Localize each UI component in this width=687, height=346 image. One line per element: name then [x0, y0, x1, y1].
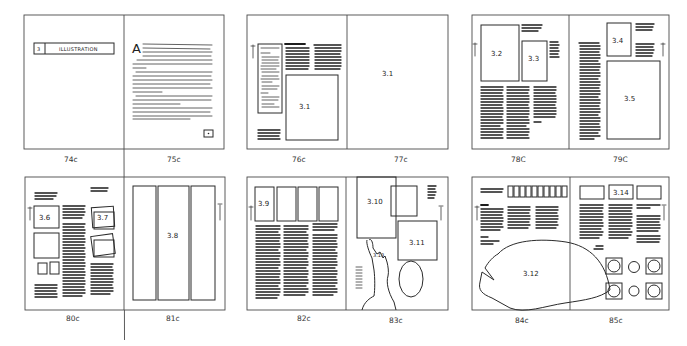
spread-82-83: 3.9	[247, 177, 448, 325]
figure-label: 3.2	[491, 50, 502, 58]
figure-label: 3.5	[624, 95, 635, 103]
figure-label: 3.7	[97, 214, 108, 222]
figure-label: 3.8	[167, 232, 178, 240]
figure-label: 3.13	[373, 252, 384, 258]
chapter-number: 3	[37, 46, 40, 52]
figure-label: 3.14	[613, 189, 629, 197]
page-label-85: 85c	[609, 316, 623, 325]
chapter-title: ILLUSTRATION	[59, 46, 98, 52]
spread-78-79: 3.2 3.3	[472, 15, 669, 164]
figure-label: 3.4	[612, 37, 624, 45]
drop-cap: A	[132, 41, 141, 56]
figure-label: 3.12	[523, 270, 539, 278]
layout-diagram: 3 ILLUSTRATION A	[0, 0, 687, 346]
spread-84-85: 3.12 3.14	[472, 177, 669, 325]
figure-label: 3.9	[258, 200, 269, 208]
figure-label: 3.11	[409, 239, 425, 247]
page-label-84: 84c	[515, 316, 529, 325]
figure-label: 3.10	[367, 198, 383, 206]
spread-frame	[472, 177, 669, 310]
figure-label: 3.6	[39, 214, 51, 222]
page-label-79: 79C	[613, 155, 628, 164]
spread-frame	[247, 15, 448, 149]
page-label-75: 75c	[167, 155, 181, 164]
figure-label: 3.3	[528, 55, 539, 63]
figure-label: 3.1	[299, 103, 310, 111]
page-label-78: 78C	[511, 155, 526, 164]
figure-label: 3.1	[382, 70, 393, 78]
page-label-83: 83c	[389, 316, 403, 325]
page-label-74: 74c	[64, 155, 78, 164]
page-label-82: 82c	[297, 314, 311, 323]
page-label-80: 80c	[66, 314, 80, 323]
page-label-81: 81c	[166, 314, 180, 323]
spread-76-77: 3.1 3.1 76c 77c	[247, 15, 448, 164]
spread-80-81: 3.6 3.7	[25, 177, 225, 323]
spread-frame	[25, 177, 225, 310]
page-label-77: 77c	[394, 155, 408, 164]
page-label-76: 76c	[292, 155, 306, 164]
